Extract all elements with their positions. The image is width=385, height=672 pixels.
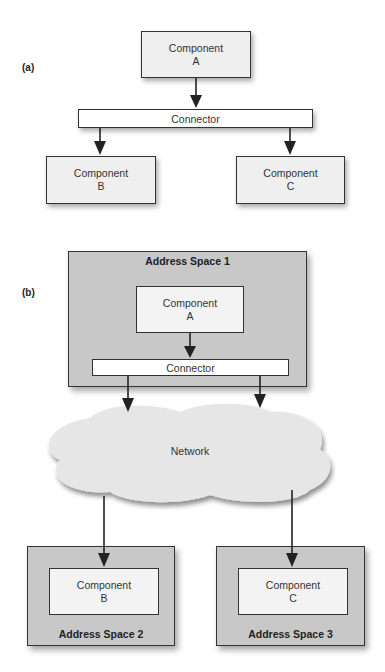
arrow-down-icon bbox=[190, 78, 202, 108]
arrow-down-icon bbox=[184, 333, 196, 358]
arrow-down-icon bbox=[122, 376, 134, 412]
arrow-down-icon bbox=[286, 490, 298, 567]
arrow-down-icon bbox=[284, 128, 296, 155]
arrow-down-icon bbox=[94, 128, 106, 155]
arrow-down-icon bbox=[98, 496, 110, 567]
arrow-down-icon bbox=[254, 376, 266, 408]
arrows-layer bbox=[0, 0, 385, 672]
